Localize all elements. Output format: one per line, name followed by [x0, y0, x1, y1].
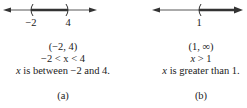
panel-a-open-interval: −2 4 (−2, 4) −2 < x < 4 x is between −2 …: [0, 0, 124, 108]
description: x is greater than 1.: [139, 65, 247, 77]
interval-notation: (1, ∞): [139, 41, 247, 53]
left-arrow-icon: [3, 8, 11, 13]
inequality-text: −2 < x < 4: [41, 53, 85, 64]
caption-b: (b): [139, 90, 247, 102]
right-arrow-icon: [234, 7, 243, 14]
interval-notation: (−2, 4): [1, 41, 125, 53]
inequality: −2 < x < 4: [1, 53, 125, 65]
tick-label-4: 4: [58, 17, 78, 29]
description-text: is greater than 1.: [167, 65, 240, 76]
number-line-b: [123, 0, 247, 30]
right-arrow-icon: [89, 8, 97, 13]
panel-b-ray-interval: 1 (1, ∞) x > 1 x is greater than 1. (b): [123, 0, 247, 108]
inequality-text: > 1: [195, 53, 211, 64]
description-text: is between −2 and 4.: [21, 65, 110, 76]
inequality: x > 1: [139, 53, 247, 65]
tick-label-1: 1: [189, 17, 209, 29]
left-arrow-icon: [152, 8, 160, 13]
tick-label-neg2: −2: [21, 17, 41, 29]
description: x is between −2 and 4.: [1, 65, 125, 77]
caption-a: (a): [1, 90, 125, 102]
